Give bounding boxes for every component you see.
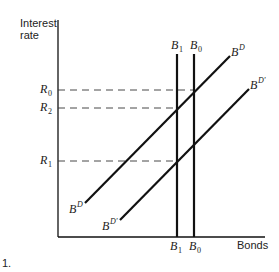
svg-text:1: 1 (178, 246, 182, 255)
x-axis-label: Bonds (237, 239, 269, 251)
svg-text:0: 0 (198, 45, 202, 54)
b1-top-label: B 1 (171, 38, 183, 54)
svg-text:D': D' (109, 217, 118, 226)
svg-text:0: 0 (48, 89, 52, 98)
footnote: 1. (2, 257, 11, 269)
svg-text:D: D (238, 43, 245, 52)
svg-text:B: B (231, 45, 239, 59)
svg-text:1: 1 (179, 45, 183, 54)
svg-text:B: B (189, 239, 197, 253)
svg-text:2: 2 (48, 107, 52, 116)
bond-market-diagram: Interest rate Bonds R 0 R 2 R 1 B 1 B 0 … (0, 0, 279, 272)
svg-text:B: B (102, 219, 110, 233)
svg-text:B: B (171, 38, 179, 52)
svg-text:1: 1 (48, 160, 52, 169)
svg-text:0: 0 (197, 246, 201, 255)
bd-top-label: B D (231, 43, 245, 59)
bd-prime-top-label: B D' (250, 76, 266, 92)
svg-text:R: R (39, 82, 48, 96)
b0-bottom-label: B 0 (189, 239, 201, 255)
svg-text:D: D (76, 200, 83, 209)
y-axis-label-line1: Interest (20, 17, 57, 29)
svg-text:B: B (190, 38, 198, 52)
bd-prime-bottom-label: B D' (102, 217, 118, 233)
svg-text:B: B (69, 202, 77, 216)
bd-bottom-label: B D (69, 200, 83, 216)
y-axis-label-line2: rate (20, 29, 39, 41)
bd-prime-demand-curve (120, 89, 249, 220)
svg-text:R: R (39, 153, 48, 167)
r1-label: R 1 (39, 153, 52, 169)
svg-text:D': D' (257, 76, 266, 85)
b1-bottom-label: B 1 (170, 239, 182, 255)
r0-label: R 0 (39, 82, 52, 98)
svg-text:B: B (250, 78, 258, 92)
svg-text:B: B (170, 239, 178, 253)
r2-label: R 2 (39, 100, 52, 116)
b0-top-label: B 0 (190, 38, 202, 54)
svg-text:R: R (39, 100, 48, 114)
